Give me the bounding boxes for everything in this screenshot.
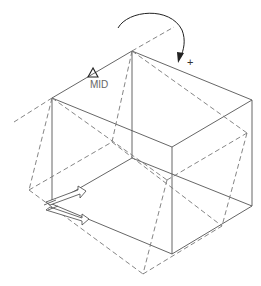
- rotation-arrow-icon: [118, 13, 184, 63]
- snap-label: MID: [90, 79, 108, 90]
- cad-drawing-canvas[interactable]: + MID: [0, 0, 261, 286]
- rotation-sign: +: [187, 56, 193, 68]
- rotation-axis: [14, 27, 174, 122]
